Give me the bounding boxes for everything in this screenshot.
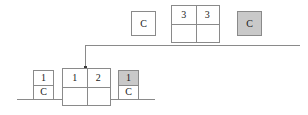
top-baseline xyxy=(85,45,300,46)
bottom-stacked-box-right-divider xyxy=(119,85,138,86)
bottom-grid-cell-bottom-left xyxy=(63,87,87,105)
bottom-grid-cell-top-right: 2 xyxy=(87,69,111,87)
bottom-stacked-box-right[interactable]: 1 C xyxy=(118,70,139,100)
bottom-stacked-box-left-bottom: C xyxy=(34,85,53,99)
top-grid-horizontal-divider xyxy=(172,24,219,25)
bottom-grid-horizontal-divider xyxy=(63,87,110,88)
diagram-canvas: C 3 3 C 1 C 1 2 1 C xyxy=(0,0,308,115)
top-shaded-box-c-label: C xyxy=(238,12,261,35)
bottom-stacked-box-right-top: 1 xyxy=(119,71,138,85)
top-grid-cell-bottom-left xyxy=(172,24,196,42)
bottom-stacked-box-left[interactable]: 1 C xyxy=(33,70,54,100)
top-grid-cell-top-left: 3 xyxy=(172,6,196,24)
bottom-stacked-box-left-divider xyxy=(34,85,53,86)
bottom-grid-2x2[interactable]: 1 2 xyxy=(62,68,111,106)
bottom-stacked-box-right-bottom: C xyxy=(119,85,138,99)
bottom-stacked-box-left-top: 1 xyxy=(34,71,53,85)
top-grid-2x2[interactable]: 3 3 xyxy=(171,5,220,43)
top-grid-cell-bottom-right xyxy=(196,24,220,42)
bottom-grid-cell-top-left: 1 xyxy=(63,69,87,87)
top-single-box-c-label: C xyxy=(132,12,155,35)
bottom-grid-cell-bottom-right xyxy=(87,87,111,105)
top-grid-cell-top-right: 3 xyxy=(196,6,220,24)
top-shaded-box-c[interactable]: C xyxy=(237,11,262,36)
top-single-box-c[interactable]: C xyxy=(131,11,156,36)
elbow-connector-vertical xyxy=(85,45,86,68)
